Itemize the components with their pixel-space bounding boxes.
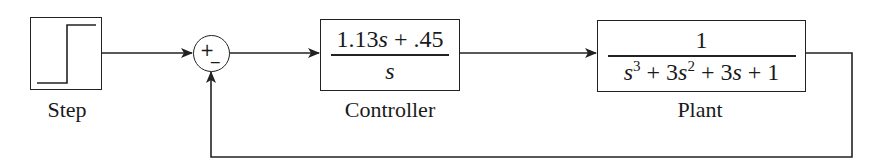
plant-block[interactable]: 1 s3 + 3s2 + 3s + 1	[597, 20, 806, 92]
step-block[interactable]	[30, 17, 102, 90]
controller-transfer-function: 1.13s + .45 s	[321, 20, 459, 90]
plant-numerator: 1	[696, 27, 708, 53]
controller-label: Controller	[345, 97, 435, 123]
fraction-bar	[608, 55, 796, 57]
plant-label: Plant	[677, 97, 722, 123]
sum-junction[interactable]: + _	[193, 35, 230, 72]
controller-denominator: s	[385, 58, 394, 84]
plant-denominator: s3 + 3s2 + 3s + 1	[624, 59, 780, 85]
step-label: Step	[47, 97, 86, 123]
minus-sign: _	[211, 45, 220, 62]
fraction-bar	[331, 54, 449, 56]
plant-transfer-function: 1 s3 + 3s2 + 3s + 1	[598, 21, 805, 91]
controller-numerator: 1.13s + .45	[337, 26, 444, 52]
controller-block[interactable]: 1.13s + .45 s	[320, 19, 460, 91]
